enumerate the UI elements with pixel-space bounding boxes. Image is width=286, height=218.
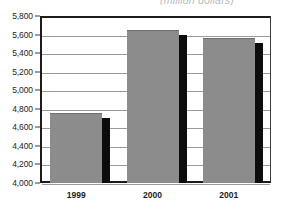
- y-axis-tick-label: 4,200: [12, 160, 33, 169]
- chart-title: (million dollars): [160, 0, 286, 5]
- y-axis: 5,8005,6005,4005,2005,0004,8004,6004,400…: [0, 16, 40, 183]
- bar-group: [127, 16, 187, 183]
- y-axis-tick-label: 5,800: [12, 12, 33, 21]
- y-axis-tick-label: 4,800: [12, 105, 33, 114]
- x-axis: 199920002001: [42, 190, 271, 204]
- bar-2001: [203, 38, 255, 183]
- y-axis-tick-label: 4,000: [12, 179, 33, 188]
- bar-group: [50, 16, 110, 183]
- bar-2000: [127, 30, 179, 183]
- bar-shadow: [102, 118, 110, 183]
- bar-shadow: [255, 43, 263, 183]
- y-axis-tick-label: 5,600: [12, 30, 33, 39]
- y-axis-tick-label: 4,400: [12, 142, 33, 151]
- gridline: [42, 184, 270, 185]
- bar-group: [203, 16, 263, 183]
- y-axis-tick-label: 5,400: [12, 49, 33, 58]
- bar-1999: [50, 113, 102, 183]
- x-axis-tick-label: 2001: [219, 190, 238, 200]
- bars-layer: [42, 16, 271, 183]
- x-axis-tick-label: 1999: [67, 190, 86, 200]
- bar-shadow: [179, 35, 187, 183]
- y-axis-tick-label: 4,600: [12, 123, 33, 132]
- y-axis-tick-label: 5,200: [12, 67, 33, 76]
- x-axis-tick-label: 2000: [143, 190, 162, 200]
- y-axis-tick-label: 5,000: [12, 86, 33, 95]
